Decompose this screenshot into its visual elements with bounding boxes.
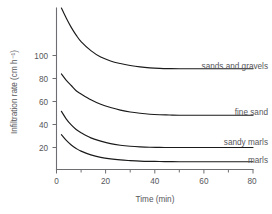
x-tick-label-40: 40 bbox=[150, 177, 160, 186]
curve-sands-and-gravels bbox=[61, 8, 253, 69]
series-label-marls: marls bbox=[248, 156, 268, 165]
x-tick-label-60: 60 bbox=[199, 177, 209, 186]
y-tick-label-60: 60 bbox=[39, 98, 49, 107]
y-tick-label-100: 100 bbox=[34, 52, 48, 61]
y-tick-label-20: 20 bbox=[39, 144, 49, 153]
y-axis-title: Infiltration rate (cm h⁻¹) bbox=[10, 50, 19, 134]
x-tick-label-80: 80 bbox=[247, 177, 257, 186]
x-tick-label-20: 20 bbox=[101, 177, 111, 186]
y-tick-label-80: 80 bbox=[39, 75, 49, 84]
y-tick-label-40: 40 bbox=[39, 121, 49, 130]
infiltration-rate-line-chart: 100 80 60 40 20 0 20 40 60 80 Time (min)… bbox=[0, 0, 272, 214]
curve-fine-sand bbox=[61, 74, 253, 115]
x-tick-label-0: 0 bbox=[54, 177, 59, 186]
x-axis-ticks bbox=[57, 170, 254, 174]
chart-figure: 100 80 60 40 20 0 20 40 60 80 Time (min)… bbox=[0, 0, 272, 214]
series-label-fine-sand: fine sand bbox=[235, 108, 269, 117]
x-axis-title: Time (min) bbox=[136, 195, 175, 204]
y-axis-ticks bbox=[53, 56, 57, 148]
series-label-sandy-marls: sandy marls bbox=[224, 138, 268, 147]
series-label-sands-and-gravels: sands and gravels bbox=[202, 62, 268, 71]
